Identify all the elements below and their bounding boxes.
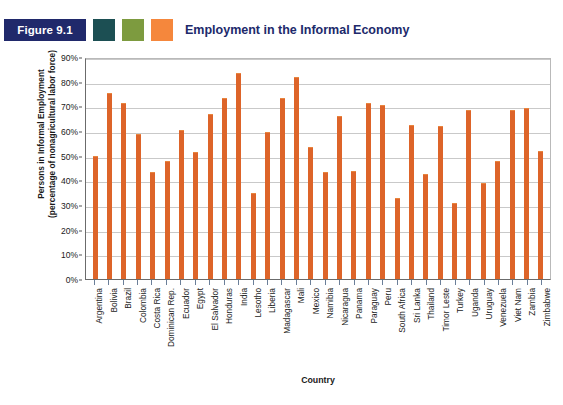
bar-slot <box>246 59 260 279</box>
y-axis-tick-mark <box>79 107 82 108</box>
bar-slot <box>217 59 231 279</box>
bar-slot <box>519 59 533 279</box>
x-axis-tick-slot <box>87 280 101 286</box>
y-axis-tick-mark <box>79 156 82 157</box>
x-axis-tick-mark <box>281 280 282 285</box>
x-axis-label-slot: Namibia <box>318 288 332 370</box>
x-axis-tick-mark <box>382 280 383 285</box>
bar-slot <box>347 59 361 279</box>
x-axis-tick-mark <box>325 280 326 285</box>
x-axis-label-slot: Dominican Rep. <box>159 288 173 370</box>
x-axis-tick-mark <box>484 280 485 285</box>
color-swatch-orange-icon <box>151 19 173 41</box>
y-axis-tick-mark <box>79 255 82 256</box>
bar <box>208 114 213 279</box>
bar <box>251 193 256 279</box>
x-axis-label-slot: Egypt <box>188 288 202 370</box>
x-axis-tick-mark <box>137 280 138 285</box>
bar-slot <box>505 59 519 279</box>
bar-slot <box>534 59 548 279</box>
bar-slot <box>462 59 476 279</box>
y-axis-tick-label: 30% <box>61 201 78 211</box>
bar <box>179 130 184 279</box>
bar-slot <box>318 59 332 279</box>
x-axis-tick-slot <box>275 280 289 286</box>
x-axis-tick-slot <box>419 280 433 286</box>
bar-slot <box>160 59 174 279</box>
bar <box>93 156 98 279</box>
chart-container: Persons in Informal Employment (percenta… <box>0 50 563 405</box>
x-axis-tick-slot <box>535 280 549 286</box>
bar-slot <box>189 59 203 279</box>
bar <box>466 110 471 279</box>
x-axis-tick-slot <box>347 280 361 286</box>
bar <box>337 116 342 279</box>
bar-slot <box>332 59 346 279</box>
y-axis-tick-labels: 90%80%70%60%50%40%30%20%10%0% <box>40 58 82 280</box>
x-axis-label-slot: Mali <box>289 288 303 370</box>
bar <box>366 103 371 279</box>
bar-slot <box>131 59 145 279</box>
bar <box>222 98 227 279</box>
x-axis-tick-mark <box>166 280 167 285</box>
bar-slot <box>433 59 447 279</box>
x-axis-tick-mark <box>411 280 412 285</box>
x-axis-tick-slot <box>101 280 115 286</box>
x-axis-label-slot: Nicaragua <box>332 288 346 370</box>
x-axis-tick-mark <box>397 280 398 285</box>
x-axis-tick-slot <box>491 280 505 286</box>
x-axis-tick-slot <box>203 280 217 286</box>
y-axis-tick-mark <box>79 132 82 133</box>
bar-slot <box>361 59 375 279</box>
x-axis-tick-slot <box>477 280 491 286</box>
bar <box>107 93 112 279</box>
y-axis-tick-label: 0% <box>66 275 78 285</box>
x-axis-tick-slot <box>434 280 448 286</box>
x-axis-tick-slot <box>217 280 231 286</box>
y-axis-tick-label: 70% <box>61 102 78 112</box>
bar-slot <box>304 59 318 279</box>
x-axis-tick-mark <box>368 280 369 285</box>
bar <box>121 103 126 279</box>
y-axis-tick-mark <box>79 230 82 231</box>
bar <box>510 110 515 279</box>
y-axis-tick-label: 90% <box>61 53 78 63</box>
x-axis-label-slot: Panama <box>347 288 361 370</box>
x-axis-label-slot: Honduras <box>217 288 231 370</box>
color-swatch-teal-icon <box>93 19 115 41</box>
x-axis-tick-slot <box>188 280 202 286</box>
x-axis-label-slot: Lesotho <box>246 288 260 370</box>
x-axis-tick-slot <box>246 280 260 286</box>
bar-slot <box>88 59 102 279</box>
x-axis-tick-slot <box>116 280 130 286</box>
x-axis-label-slot: Paraguay <box>361 288 375 370</box>
x-axis-tick-mark <box>296 280 297 285</box>
x-axis-tick-labels: ArgentinaBoliviaBrazilColombiaCosta Rica… <box>85 288 551 370</box>
x-axis-tick-mark <box>354 280 355 285</box>
x-axis-tick-mark <box>238 280 239 285</box>
x-axis-label-slot: Thailand <box>419 288 433 370</box>
x-axis-tick-slot <box>231 280 245 286</box>
x-axis-tick-slot <box>145 280 159 286</box>
x-axis-tick-slot <box>318 280 332 286</box>
x-axis-label-slot: Ecuador <box>174 288 188 370</box>
x-axis-tick-slot <box>448 280 462 286</box>
plot-area <box>85 58 551 280</box>
x-axis-label-slot: India <box>231 288 245 370</box>
x-axis-label-slot: Peru <box>376 288 390 370</box>
x-axis-tick-slot <box>304 280 318 286</box>
bar <box>495 161 500 279</box>
x-axis-tick-mark <box>339 280 340 285</box>
x-axis-label-slot: El Salvador <box>203 288 217 370</box>
bar <box>236 73 241 279</box>
bar <box>409 125 414 279</box>
x-axis-label-slot: Liberia <box>260 288 274 370</box>
x-axis-label-slot: Timor Leste <box>434 288 448 370</box>
x-axis-tick-mark <box>469 280 470 285</box>
x-axis-tick-mark <box>123 280 124 285</box>
x-axis-tick-label: Zimbabwe <box>542 288 552 326</box>
x-axis-tick-slot <box>405 280 419 286</box>
x-axis-label-slot: Brazil <box>116 288 130 370</box>
bar <box>395 198 400 279</box>
x-axis-tick-slot <box>462 280 476 286</box>
